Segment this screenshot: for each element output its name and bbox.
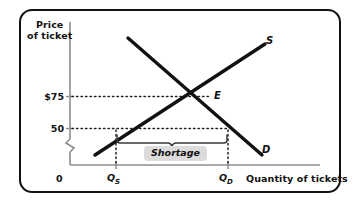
qs-symbol: Q: [107, 172, 115, 183]
x-axis-title: Quantity of tickets: [246, 174, 348, 184]
demand-curve-label: D: [262, 145, 270, 155]
y-axis-title: Price of ticket: [27, 19, 72, 41]
y-tick-label-75: $75: [26, 92, 64, 102]
y-tick-label-50: 50: [26, 124, 64, 134]
axis-break-icon: [66, 139, 74, 152]
qd-symbol: Q: [219, 172, 227, 183]
origin-label: 0: [56, 174, 63, 184]
y-axis-title-line1: Price: [27, 19, 72, 30]
supply-curve-label: S: [266, 36, 273, 46]
x-tick-label-qd: QD: [219, 173, 233, 186]
shortage-annotation-badge: Shortage: [144, 146, 207, 161]
y-axis-title-line2: of ticket: [27, 30, 72, 41]
equilibrium-point-label: E: [214, 91, 221, 101]
qs-subscript: S: [115, 178, 120, 186]
x-tick-label-qs: QS: [107, 173, 120, 186]
qd-subscript: D: [227, 178, 233, 186]
figure-container: Price of ticket Quantity of tickets $75 …: [0, 0, 359, 205]
shortage-brace: [117, 135, 227, 147]
supply-curve: [95, 44, 265, 155]
